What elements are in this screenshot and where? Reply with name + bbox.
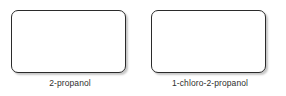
figure-canvas: 2-propanol 1-chloro-2-propanol xyxy=(0,0,286,96)
structure-label: 2-propanol xyxy=(8,78,132,89)
structure-cell-1-chloro-2-propanol: 1-chloro-2-propanol xyxy=(148,0,276,96)
structure-box xyxy=(151,10,266,73)
structure-label: 1-chloro-2-propanol xyxy=(148,78,272,89)
structure-box xyxy=(11,10,126,73)
structure-cell-2-propanol: 2-propanol xyxy=(8,0,136,96)
